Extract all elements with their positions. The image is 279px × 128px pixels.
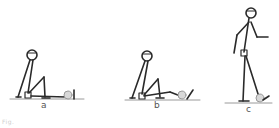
ball-icon bbox=[178, 91, 186, 99]
figure-c-stick-person bbox=[225, 8, 272, 103]
panel-label-b: b bbox=[154, 100, 160, 110]
panel-label-c: c bbox=[246, 104, 251, 114]
figure-a-stick-person bbox=[10, 50, 84, 99]
figure-b-stick-person bbox=[125, 51, 200, 100]
head-icon bbox=[246, 8, 256, 18]
ball-icon bbox=[64, 91, 72, 99]
head-icon bbox=[27, 50, 37, 60]
panel-label-a: a bbox=[41, 100, 47, 110]
figure-caption: Fig. bbox=[2, 118, 14, 125]
head-icon bbox=[142, 51, 152, 61]
ball-icon bbox=[256, 94, 264, 102]
